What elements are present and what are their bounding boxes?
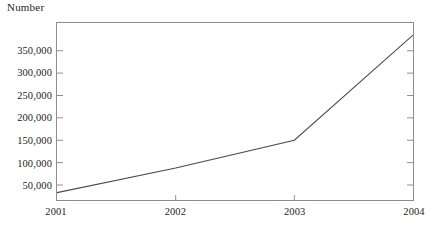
x-axis-tick-label: 2002 (145, 206, 205, 218)
x-axis-tick-label: 2004 (384, 206, 439, 218)
x-axis-tick-label: 2003 (265, 206, 325, 218)
x-axis-tick-label: 2001 (26, 206, 86, 218)
line-chart-figure: Number 50,000100,000150,000200,000250,00… (0, 0, 439, 244)
x-axis-tick-label-group: 2001200220032004 (0, 0, 439, 244)
